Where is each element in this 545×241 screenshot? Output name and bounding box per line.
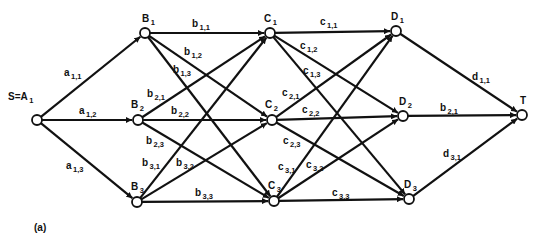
node-c3: [269, 196, 279, 206]
edge-b3-c1: [140, 38, 266, 198]
node-labels: S=A1B1B2B3C1C2C3D1D2D3T: [8, 11, 526, 195]
edge-c3-d2: [278, 119, 398, 198]
node-d1: [391, 26, 401, 36]
edge-label-b-3-1: b3,1: [142, 157, 160, 171]
edge-label-b-3-3: b3,3: [195, 187, 213, 201]
node-d3: [404, 194, 414, 204]
node-label-c3: C3: [268, 180, 281, 194]
edge-s-b3: [41, 123, 132, 198]
edge-label-c-2-1: c2,1: [282, 87, 300, 101]
node-t: [517, 110, 527, 120]
edge-label-a-1-2: a1,2: [79, 105, 97, 119]
edge-b1-c2: [149, 36, 267, 117]
edge-label-b-1-2: b1,2: [184, 46, 202, 60]
node-b3: [132, 197, 142, 207]
edge-d2-t: [408, 115, 516, 116]
node-label-b1: B1: [142, 13, 155, 27]
multistage-graph: a1,1a1,2a1,3b1,1b1,2b1,3b2,1b2,2b2,3b3,1…: [0, 0, 545, 241]
node-b1: [140, 28, 150, 38]
edges: [41, 31, 517, 202]
edge-label-c-1-1: c1,1: [320, 16, 338, 30]
node-label-c1: C1: [264, 13, 277, 27]
edge-d1-t: [400, 34, 517, 112]
edge-label-a-1-1: a1,1: [64, 67, 82, 81]
edge-s-b1: [41, 37, 140, 117]
node-label-t: T: [520, 95, 526, 106]
node-label-b3: B3: [131, 181, 144, 195]
edge-c1-d1: [275, 31, 390, 33]
node-label-d1: D1: [391, 11, 404, 25]
edge-label-a-1-3: a1,3: [66, 160, 84, 174]
edge-label-b-1-1: b1,1: [192, 18, 210, 32]
edge-label-b-2-2: b2,2: [171, 105, 189, 119]
edge-label-b-2-1: b2,1: [147, 88, 165, 102]
edge-label-b-1-3: b1,3: [173, 64, 191, 78]
node-b2: [133, 115, 143, 125]
edge-label-c-2-2: c2,2: [302, 104, 320, 118]
node-c2: [267, 115, 277, 125]
edge-b3-c2: [141, 123, 267, 199]
edge-label-c-3-2: c3,2: [306, 159, 324, 173]
edge-label-c-2-3: c2,3: [283, 135, 301, 149]
edge-b2-c1: [142, 36, 265, 117]
node-label-b2: B2: [131, 99, 144, 113]
edge-b3-c3: [142, 201, 268, 202]
node-label-d2: D2: [399, 96, 412, 110]
figure-caption: (a): [34, 222, 46, 233]
edge-c2-d3: [276, 122, 403, 196]
edge-label-c-3-3: c3,3: [332, 187, 350, 201]
edge-label-d-3-1: d3,1: [443, 148, 461, 162]
node-c1: [265, 28, 275, 38]
edge-label-c-1-2: c1,2: [300, 40, 318, 54]
edge-label-b-2-3: b2,3: [146, 135, 164, 149]
node-d2: [398, 111, 408, 121]
edge-d3-t: [413, 119, 517, 196]
edge-c2-d2: [277, 116, 397, 120]
node-label-c2: C2: [265, 99, 278, 113]
edge-label-b-2-1: b2,1: [440, 102, 458, 116]
edge-b1-c3: [148, 37, 270, 196]
node-label-s: S=A1: [8, 91, 33, 105]
node-label-d3: D3: [404, 179, 417, 193]
edge-label-c-3-1: c3,1: [278, 161, 296, 175]
edge-label-b-3-2: b3,2: [176, 157, 194, 171]
node-s: [32, 115, 42, 125]
